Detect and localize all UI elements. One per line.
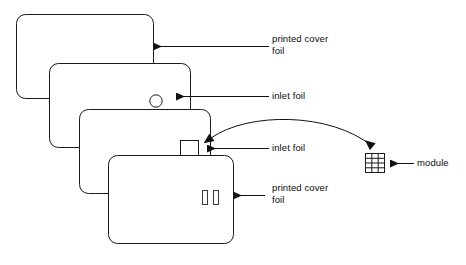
bar-feature-left [203, 191, 208, 205]
bar-feature-right [214, 191, 219, 205]
diagram-vector-layer [0, 0, 466, 265]
diagram-canvas: printed cover foil inlet foil inlet foil… [0, 0, 466, 265]
label-inlet-foil-bottom: inlet foil [272, 142, 305, 154]
label-printed-cover-foil-top: printed cover foil [272, 33, 328, 56]
card-printed-cover-foil-bottom [109, 156, 234, 244]
label-printed-cover-foil-bottom: printed cover foil [272, 182, 328, 205]
label-module: module [417, 157, 449, 169]
circle-hole-feature [150, 95, 162, 107]
module-icon [366, 154, 385, 173]
label-inlet-foil-top: inlet foil [272, 90, 305, 102]
square-cavity-feature [181, 141, 199, 156]
